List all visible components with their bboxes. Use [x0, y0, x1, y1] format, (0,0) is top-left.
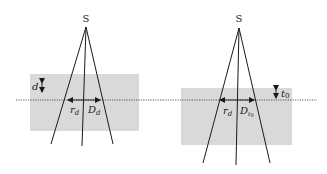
right-panel: S t0 rd Dt0: [163, 13, 317, 165]
left-depth-label: d: [32, 81, 38, 92]
left-panel: S d rd Dd: [16, 13, 163, 146]
diagram-canvas: S d rd Dd S t0 rd Dt0: [0, 0, 327, 174]
right-source-label: S: [236, 13, 243, 24]
left-source-label: S: [83, 13, 90, 24]
